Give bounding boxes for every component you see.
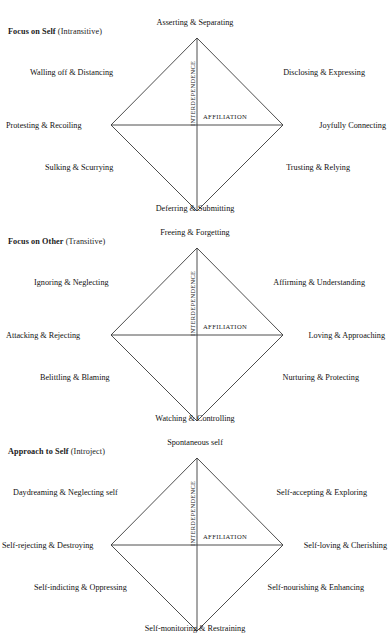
pole-lower-right: Self-nourishing & Enhancing (268, 583, 364, 592)
pole-top: Spontaneous self (167, 438, 223, 447)
pole-left: Protesting & Recoiling (6, 121, 82, 130)
pole-lower-left: Self-indicting & Oppressing (34, 583, 127, 592)
scan-artifact-text: · · · (0, 0, 11, 3)
pole-right: Joyfully Connecting (319, 121, 386, 130)
pole-upper-left: Daydreaming & Neglecting self (13, 488, 118, 497)
axis-label-affiliation: AFFILIATION (203, 113, 247, 120)
pole-left: Attacking & Rejecting (6, 331, 80, 340)
scan-artifact: · · · (0, 0, 390, 7)
pole-top: Freeing & Forgetting (160, 228, 229, 237)
axis-label-interdependence: INTERDEPENDENCE (189, 481, 196, 546)
diagram-block-approach-to-self: Approach to Self (Introject) INTERDEPEND… (0, 428, 390, 633)
axis-label-interdependence: INTERDEPENDENCE (189, 61, 196, 126)
pole-upper-right: Self-accepting & Exploring (277, 488, 368, 497)
pole-upper-left: Ignoring & Neglecting (34, 278, 109, 287)
pole-lower-left: Sulking & Scurrying (45, 163, 113, 172)
pole-lower-left: Belittling & Blaming (40, 373, 110, 382)
axis-label-interdependence: INTERDEPENDENCE (189, 271, 196, 336)
pole-bottom: Self-monitoring & Restraining (145, 624, 246, 633)
figure-page: · · · Focus on Self (Intransitive) INTER… (0, 0, 390, 633)
pole-upper-right: Disclosing & Expressing (283, 68, 365, 77)
pole-upper-right: Affirming & Understanding (273, 278, 365, 287)
pole-top: Asserting & Separating (157, 18, 234, 27)
pole-lower-right: Trusting & Relying (286, 163, 350, 172)
diagram-block-focus-on-other: Focus on Other (Transitive) INTERDEPENDE… (0, 218, 390, 426)
pole-left: Self-rejecting & Destroying (2, 541, 93, 550)
pole-bottom: Deferring & Submitting (156, 204, 235, 213)
pole-bottom: Watching & Controlling (155, 414, 234, 423)
pole-right: Loving & Approaching (309, 331, 385, 340)
axis-label-affiliation: AFFILIATION (203, 533, 247, 540)
diagram-block-focus-on-self: Focus on Self (Intransitive) INTERDEPEND… (0, 8, 390, 216)
pole-right: Self-loving & Cherishing (304, 541, 387, 550)
pole-upper-left: Walling off & Distancing (30, 68, 113, 77)
axis-label-affiliation: AFFILIATION (203, 323, 247, 330)
pole-lower-right: Nurturing & Protecting (283, 373, 359, 382)
